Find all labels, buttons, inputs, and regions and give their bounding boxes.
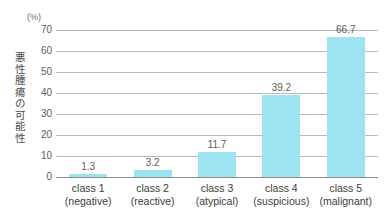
bar-value-label: 39.2 <box>272 83 291 93</box>
y-axis-tick-label: 10 <box>28 151 52 161</box>
bar-value-label: 11.7 <box>208 140 227 150</box>
y-axis-tick-label: 0 <box>28 172 52 182</box>
category-label: class 4(suspicious) <box>249 182 313 208</box>
y-axis-tick-label: 50 <box>28 67 52 77</box>
bar-value-label: 66.7 <box>336 25 355 35</box>
category-label-line2: (reactive) <box>120 195 184 208</box>
bar[interactable] <box>262 95 300 177</box>
y-axis-tick-label: 70 <box>28 25 52 35</box>
category-axis: class 1(negative)class 2(reactive)class … <box>56 182 378 216</box>
category-label-line2: (malignant) <box>314 195 378 208</box>
bar-value-label: 3.2 <box>146 158 160 168</box>
bar-chart: (%) 悪性腫瘍の可能性 1.33.211.739.266.7 class 1(… <box>0 0 387 220</box>
category-label: class 5(malignant) <box>314 182 378 208</box>
category-label-line1: class 1 <box>56 182 120 195</box>
y-axis-title: 悪性腫瘍の可能性 <box>10 52 24 144</box>
bar-slot: 3.2 <box>120 30 184 177</box>
bar[interactable] <box>327 37 365 177</box>
category-label-line2: (suspicious) <box>249 195 313 208</box>
bar[interactable] <box>69 174 107 177</box>
category-label-line1: class 2 <box>120 182 184 195</box>
y-axis-tick-label: 60 <box>28 46 52 56</box>
y-axis-tick-label: 40 <box>28 88 52 98</box>
bar-value-label: 1.3 <box>81 162 95 172</box>
axis-baseline <box>56 177 378 178</box>
category-label-line2: (negative) <box>56 195 120 208</box>
category-label: class 1(negative) <box>56 182 120 208</box>
category-label-line1: class 5 <box>314 182 378 195</box>
category-label: class 3(atypical) <box>185 182 249 208</box>
category-label-line1: class 4 <box>249 182 313 195</box>
bar-slot: 11.7 <box>185 30 249 177</box>
category-label-line1: class 3 <box>185 182 249 195</box>
category-label-line2: (atypical) <box>185 195 249 208</box>
bar[interactable] <box>134 170 172 177</box>
bar-slot: 39.2 <box>249 30 313 177</box>
bars-area: 1.33.211.739.266.7 <box>56 30 378 177</box>
bar-slot: 66.7 <box>314 30 378 177</box>
y-axis-tick-label: 20 <box>28 130 52 140</box>
y-axis-unit-label: (%) <box>27 12 41 22</box>
bar[interactable] <box>198 152 236 177</box>
category-label: class 2(reactive) <box>120 182 184 208</box>
bar-slot: 1.3 <box>56 30 120 177</box>
y-axis-tick-label: 30 <box>28 109 52 119</box>
